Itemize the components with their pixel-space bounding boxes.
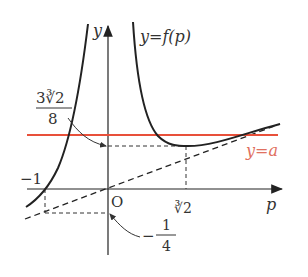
graph: y y=f(p) p O y=a 3∛2 8 ∛2 −1 − 1 4 (0, 0, 308, 277)
intercept-denominator: 4 (162, 238, 171, 254)
min-value-denominator: 8 (48, 110, 58, 128)
curve-label: y=f(p) (139, 27, 191, 46)
line-a-label: y=a (245, 141, 278, 160)
intercept-numerator: 1 (162, 217, 171, 233)
intercept-sign: − (142, 227, 155, 245)
asymptote-line (25, 124, 280, 219)
pointer-intercept (110, 214, 140, 237)
pointer-min (68, 118, 106, 146)
x-neg1-label: −1 (20, 170, 42, 188)
x-axis-label: p (266, 195, 276, 214)
min-value-numerator: 3∛2 (36, 89, 65, 107)
y-axis-label: y (92, 21, 103, 40)
x-min-label: ∛2 (174, 200, 192, 216)
origin-label: O (111, 193, 123, 211)
